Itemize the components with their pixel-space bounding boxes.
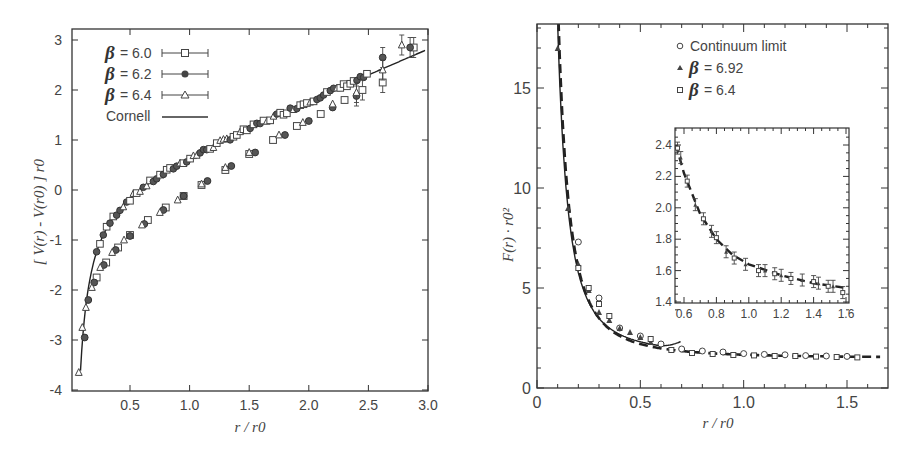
data-point xyxy=(293,123,300,130)
left-y-axis-label: [ V(r) - V(r0) ] r0 xyxy=(31,158,48,265)
inset-chart: 1.41.61.82.02.22.40.60.81.01.21.41.6 xyxy=(655,128,854,321)
inset-x-tick-label: 1.0 xyxy=(740,307,757,321)
data-point xyxy=(757,269,761,273)
inset-y-tick-label: 2.2 xyxy=(655,169,672,183)
data-point xyxy=(669,348,674,353)
x-tick-label: 0.5 xyxy=(120,397,140,413)
data-point xyxy=(676,146,680,150)
data-point xyxy=(180,193,187,200)
x-tick-label: 1.5 xyxy=(836,394,858,411)
data-point xyxy=(834,355,839,360)
data-point xyxy=(803,353,809,359)
svg-text:= 6.92: = 6.92 xyxy=(704,60,744,76)
inset-y-tick-label: 2.4 xyxy=(655,138,672,152)
data-point xyxy=(341,97,348,104)
data-point xyxy=(597,302,602,307)
inset-y-tick-label: 1.4 xyxy=(655,295,672,309)
filled-triangle-marker-icon xyxy=(677,65,683,70)
data-point xyxy=(772,354,777,359)
legend-item-beta-6.2: β = 6.2 xyxy=(104,63,208,84)
svg-text:= 6.4: = 6.4 xyxy=(120,87,152,103)
inset-x-tick-label: 1.2 xyxy=(773,307,790,321)
data-point xyxy=(575,239,581,245)
data-point xyxy=(823,353,829,359)
data-point xyxy=(658,341,664,347)
svg-text:β: β xyxy=(104,84,115,105)
data-point xyxy=(648,337,653,342)
data-point xyxy=(204,178,211,185)
data-point xyxy=(107,220,114,227)
data-point xyxy=(596,309,602,315)
inset-y-tick-label: 1.6 xyxy=(655,264,672,278)
data-point xyxy=(364,70,371,77)
figure: -4-3-2-101230.51.01.52.02.53.0 [ V(r) - … xyxy=(0,0,916,451)
y-tick-label: -2 xyxy=(50,282,63,298)
y-tick-label: 0 xyxy=(54,182,62,198)
svg-text:Continuum limit: Continuum limit xyxy=(690,38,787,54)
y-tick-label: -3 xyxy=(50,332,63,348)
legend-item-beta-6.0: β = 6.0 xyxy=(104,42,208,63)
y-tick-label: -4 xyxy=(50,382,63,398)
data-point xyxy=(814,354,819,359)
data-point xyxy=(841,291,845,295)
open-square-marker-icon xyxy=(678,88,683,93)
data-point xyxy=(555,45,561,51)
legend-item-cornell: Cornell xyxy=(106,108,208,124)
data-point xyxy=(720,349,726,355)
inset-x-tick-label: 0.8 xyxy=(708,307,725,321)
y-tick-label: 5 xyxy=(522,280,531,297)
right-legend: Continuum limit β = 6.92 β = 6.4 xyxy=(677,38,787,100)
inset-x-tick-label: 0.6 xyxy=(676,307,693,321)
data-point xyxy=(359,87,366,94)
data-point xyxy=(97,241,104,248)
right-chart-force: 05101500.51.01.5 F(r) · r0² r / r0 Conti… xyxy=(500,0,888,431)
data-point xyxy=(79,324,86,331)
data-point xyxy=(228,163,235,170)
data-point xyxy=(329,100,336,107)
data-point xyxy=(782,352,788,358)
data-point xyxy=(812,280,816,284)
open-circle-marker-icon xyxy=(677,43,683,49)
data-point xyxy=(741,351,747,357)
inset-y-tick-label: 2.0 xyxy=(655,201,672,215)
data-point xyxy=(127,197,134,204)
svg-text:β: β xyxy=(688,57,699,78)
svg-text:= 6.4: = 6.4 xyxy=(704,82,736,98)
svg-text:Cornell: Cornell xyxy=(106,108,150,124)
svg-text:β: β xyxy=(104,63,115,84)
data-point xyxy=(627,329,633,335)
x-tick-label: 1.0 xyxy=(733,394,755,411)
data-point xyxy=(855,355,860,360)
x-tick-label: 2.0 xyxy=(299,397,319,413)
left-chart-potential: -4-3-2-101230.51.01.52.02.53.0 [ V(r) - … xyxy=(31,29,438,435)
data-point xyxy=(731,353,736,358)
data-point xyxy=(576,266,581,271)
data-point xyxy=(398,41,405,48)
data-point xyxy=(826,284,830,288)
y-tick-label: 10 xyxy=(513,180,531,197)
inset-y-tick-label: 1.8 xyxy=(655,232,672,246)
data-point xyxy=(679,346,685,352)
right-x-axis-label: r / r0 xyxy=(703,415,734,431)
y-tick-label: 1 xyxy=(54,132,62,148)
data-point xyxy=(596,295,602,301)
x-tick-label: 0 xyxy=(533,394,542,411)
filled-circle-marker-icon xyxy=(182,71,189,78)
data-point xyxy=(732,256,736,260)
left-legend: β = 6.0 β = 6.2 β = 6.4 xyxy=(104,42,208,124)
y-tick-label: 2 xyxy=(54,82,62,98)
data-point xyxy=(690,351,695,356)
data-point xyxy=(793,354,798,359)
data-point xyxy=(685,179,689,183)
legend-item-beta-6.4: β = 6.4 xyxy=(104,84,208,105)
data-point xyxy=(305,118,312,125)
data-point xyxy=(607,314,612,319)
data-point xyxy=(701,217,705,221)
data-point xyxy=(81,334,88,341)
data-point xyxy=(85,297,92,304)
data-point xyxy=(93,248,100,255)
x-tick-label: 2.5 xyxy=(359,397,379,413)
data-point xyxy=(699,348,705,354)
data-point xyxy=(714,236,718,240)
x-tick-label: 1.0 xyxy=(180,397,200,413)
